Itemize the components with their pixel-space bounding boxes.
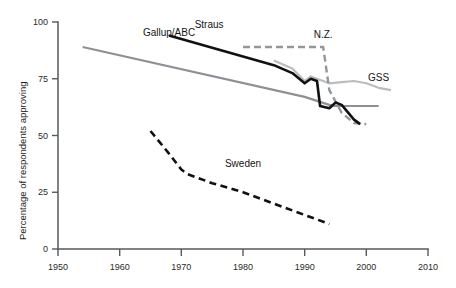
series-label-gallup-abc: Gallup/ABC: [143, 27, 195, 38]
series-label-nz: N.Z.: [314, 29, 333, 40]
y-tick-label-75: 75: [38, 74, 48, 84]
x-tick-label-2010: 2010: [418, 262, 438, 272]
x-tick-label-1980: 1980: [233, 262, 253, 272]
series-annotations: Gallup/ABC Straus N.Z. GSS Sweden: [143, 19, 390, 170]
y-tick-label-100: 100: [33, 17, 48, 27]
chart-container: Percentage of respondents approving 100 …: [0, 0, 456, 288]
x-axis-ticks: [58, 249, 428, 256]
y-tick-label-50: 50: [38, 131, 48, 141]
x-tick-label-1950: 1950: [48, 262, 68, 272]
series-paths: [83, 36, 391, 224]
line-chart: Percentage of respondents approving 100 …: [0, 0, 456, 288]
y-tick-label-0: 0: [43, 244, 48, 254]
series-label-gss: GSS: [368, 72, 389, 83]
x-tick-label-1990: 1990: [295, 262, 315, 272]
series-label-straus: Straus: [195, 19, 224, 30]
x-tick-label-1970: 1970: [171, 262, 191, 272]
y-axis-tick-labels: 100 75 50 25 0: [33, 17, 48, 254]
y-axis-title: Percentage of respondents approving: [17, 82, 28, 240]
series-line-sweden: [151, 131, 330, 224]
series-line-straus: [169, 36, 360, 125]
x-tick-label-2000: 2000: [356, 262, 376, 272]
x-axis-tick-labels: 1950 1960 1970 1980 1990 2000 2010: [48, 262, 438, 272]
series-label-sweden: Sweden: [225, 158, 261, 169]
x-tick-label-1960: 1960: [110, 262, 130, 272]
y-tick-label-25: 25: [38, 187, 48, 197]
y-axis-ticks: [52, 22, 58, 249]
